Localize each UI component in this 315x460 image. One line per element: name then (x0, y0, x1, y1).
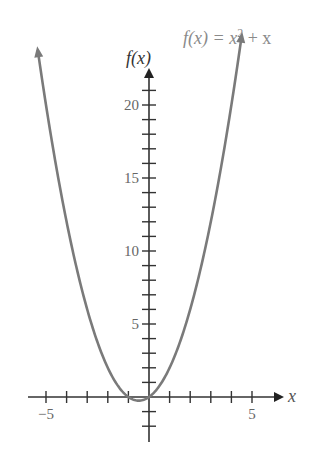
y-tick-label: 5 (132, 316, 140, 332)
tick-labels: −555101520 (38, 97, 256, 422)
y-axis-label: f(x) (126, 48, 151, 69)
x-axis-label: x (287, 386, 296, 406)
curve-arrow-icon (34, 46, 43, 58)
x-tick-label: 5 (248, 406, 256, 422)
parabola-curve (38, 36, 242, 401)
x-tick-label: −5 (38, 406, 54, 422)
parabola-chart: −555101520 f(x) x f(x) = x2 + x (0, 0, 315, 460)
y-tick-label: 20 (124, 97, 139, 113)
axes (28, 70, 282, 442)
y-tick-label: 15 (124, 170, 139, 186)
function-label: f(x) = x2 + x (183, 26, 271, 49)
chart-root: −555101520 f(x) x f(x) = x2 + x (0, 0, 315, 460)
y-tick-label: 10 (124, 243, 139, 259)
